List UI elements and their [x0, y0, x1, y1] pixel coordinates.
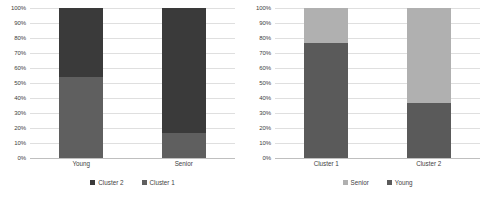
left-chart-y-tick-label: 50%	[14, 80, 26, 86]
left-chart-bar-segment[interactable]	[59, 77, 103, 158]
right-chart-x-axis-labels: Cluster 1Cluster 2	[275, 160, 480, 172]
left-chart-bar[interactable]	[162, 8, 206, 158]
left-chart-y-tick-label: 20%	[14, 125, 26, 131]
right-chart-bar[interactable]	[304, 8, 348, 158]
right-chart-y-tick-label: 30%	[259, 110, 271, 116]
right-chart-y-tick-label: 20%	[259, 125, 271, 131]
left-chart-bar-segment[interactable]	[162, 133, 206, 159]
right-chart-y-tick-label: 90%	[259, 20, 271, 26]
legend-swatch-icon	[387, 180, 392, 185]
right-chart-legend-item[interactable]: Senior	[343, 179, 369, 186]
left-chart-y-tick-label: 60%	[14, 65, 26, 71]
right-chart-bar-segment[interactable]	[304, 43, 348, 159]
right-chart-x-axis-line	[275, 158, 480, 159]
left-chart-y-tick-label: 90%	[14, 20, 26, 26]
left-chart-plot-area	[30, 8, 235, 158]
left-chart-plot-wrap: 100%90%80%70%60%50%40%30%20%10%0% YoungS…	[0, 0, 245, 199]
left-chart-y-tick-label: 80%	[14, 35, 26, 41]
left-chart-y-tick-label: 0%	[18, 155, 26, 161]
left-chart-y-tick-label: 40%	[14, 95, 26, 101]
left-chart-bar[interactable]	[59, 8, 103, 158]
left-chart-x-axis-labels: YoungSenior	[30, 160, 235, 172]
right-chart-legend-item[interactable]: Young	[387, 179, 413, 186]
left-chart-y-tick-label: 70%	[14, 50, 26, 56]
right-chart-y-tick-label: 0%	[263, 155, 271, 161]
left-chart-panel: 100%90%80%70%60%50%40%30%20%10%0% YoungS…	[0, 0, 245, 199]
right-chart-y-tick-label: 50%	[259, 80, 271, 86]
left-chart-y-tick-label: 30%	[14, 110, 26, 116]
right-chart-y-tick-label: 70%	[259, 50, 271, 56]
dual-chart-figure: 100%90%80%70%60%50%40%30%20%10%0% YoungS…	[0, 0, 491, 199]
right-chart-bar-segment[interactable]	[407, 103, 451, 159]
legend-swatch-icon	[90, 180, 95, 185]
right-chart-y-tick-label: 80%	[259, 35, 271, 41]
right-chart-legend-label: Senior	[351, 179, 369, 186]
left-chart-legend-item[interactable]: Cluster 1	[142, 179, 175, 186]
right-chart-bar-segment[interactable]	[407, 8, 451, 103]
right-chart-panel: 100%90%80%70%60%50%40%30%20%10%0% Cluste…	[245, 0, 490, 199]
left-chart-legend-label: Cluster 1	[150, 179, 175, 186]
right-chart-y-tick-label: 100%	[256, 5, 271, 11]
right-chart-bar-segment[interactable]	[304, 8, 348, 43]
right-chart-y-axis-labels: 100%90%80%70%60%50%40%30%20%10%0%	[245, 8, 273, 158]
left-chart-x-axis-line	[30, 158, 235, 159]
right-chart-plot-area	[275, 8, 480, 158]
left-chart-x-tick-label: Young	[72, 160, 90, 167]
right-chart-y-tick-label: 10%	[259, 140, 271, 146]
left-chart-bar-segment[interactable]	[59, 8, 103, 77]
left-chart-legend-label: Cluster 2	[98, 179, 123, 186]
left-chart-y-tick-label: 100%	[11, 5, 26, 11]
right-chart-bar[interactable]	[407, 8, 451, 158]
left-chart-bar-segment[interactable]	[162, 8, 206, 133]
right-chart-y-tick-label: 40%	[259, 95, 271, 101]
left-chart-y-axis-labels: 100%90%80%70%60%50%40%30%20%10%0%	[0, 8, 28, 158]
right-chart-x-tick-label: Cluster 2	[416, 160, 441, 167]
left-chart-legend: Cluster 2Cluster 1	[30, 176, 235, 188]
right-chart-legend-label: Young	[395, 179, 413, 186]
right-chart-legend: SeniorYoung	[275, 176, 480, 188]
left-chart-y-tick-label: 10%	[14, 140, 26, 146]
right-chart-plot-wrap: 100%90%80%70%60%50%40%30%20%10%0% Cluste…	[245, 0, 490, 199]
left-chart-legend-item[interactable]: Cluster 2	[90, 179, 123, 186]
legend-swatch-icon	[142, 180, 147, 185]
legend-swatch-icon	[343, 180, 348, 185]
right-chart-x-tick-label: Cluster 1	[314, 160, 339, 167]
right-chart-y-tick-label: 60%	[259, 65, 271, 71]
left-chart-x-tick-label: Senior	[175, 160, 193, 167]
